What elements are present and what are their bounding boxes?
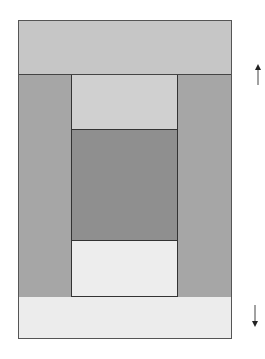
up-arrow-icon [253, 64, 263, 86]
center-bottom [72, 241, 177, 297]
bottom-band [19, 297, 231, 338]
right-column [177, 75, 231, 297]
center-middle [72, 130, 177, 241]
top-band [19, 21, 231, 75]
center-top [72, 75, 177, 130]
left-column [19, 75, 72, 297]
down-arrow-icon [250, 305, 260, 327]
